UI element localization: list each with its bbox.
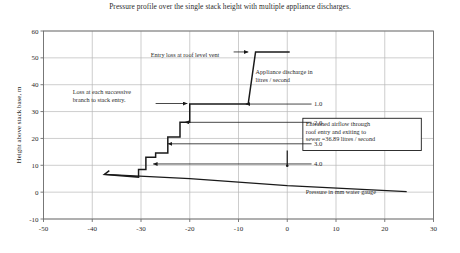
y-tick-label: 20 xyxy=(32,135,40,143)
y-tick-label: -10 xyxy=(29,216,39,224)
branch-loss-annotation: Loss at each successivebranch to stack e… xyxy=(73,88,131,103)
x-tick-label: 0 xyxy=(286,225,290,233)
x-tick-label: -20 xyxy=(185,225,195,233)
x-tick-label: -10 xyxy=(234,225,244,233)
chart-figure: Pressure profile over the single stack h… xyxy=(0,0,460,253)
discharge-label: 1.0 xyxy=(314,100,323,107)
x-tick-label: 10 xyxy=(333,225,341,233)
x-tick-label: -50 xyxy=(39,225,49,233)
x-axis-annotation: Pressure in mm water gauge xyxy=(306,188,376,195)
y-tick-label: 30 xyxy=(32,108,40,116)
discharge-label: 4.0 xyxy=(314,160,323,167)
y-tick-label: 50 xyxy=(32,54,40,62)
entrained-airflow-leader-dot xyxy=(286,165,289,168)
y-tick-label: 0 xyxy=(35,189,39,197)
entry-loss-annotation: Entry loss at roof level vent xyxy=(151,51,220,58)
x-tick-label: -30 xyxy=(136,225,146,233)
x-tick-label: -40 xyxy=(88,225,98,233)
discharge-label: 3.0 xyxy=(314,140,323,147)
y-tick-label: 40 xyxy=(32,81,40,89)
appliance-discharge-annotation: Appliance discharge inlitres / second xyxy=(256,68,313,83)
y-tick-label: 10 xyxy=(32,162,40,170)
y-axis-title: Height above stack base, m xyxy=(15,86,23,163)
discharge-label: 2.0 xyxy=(314,119,323,126)
y-tick-label: 60 xyxy=(32,28,40,36)
pressure-profile-chart: -100102030405060-50-40-30-20-100102030He… xyxy=(0,0,460,253)
x-tick-label: 30 xyxy=(430,225,438,233)
x-tick-label: 20 xyxy=(381,225,389,233)
